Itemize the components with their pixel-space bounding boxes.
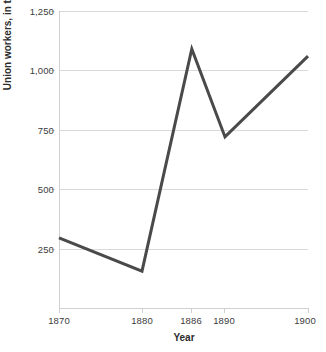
line-chart: 1,250 1,000 750 500 250 1870 1880 1886 1…	[0, 0, 326, 352]
series-line-union-workers	[0, 0, 326, 352]
y-axis-title: Union workers, in thousands	[2, 0, 16, 170]
series-polyline	[59, 49, 308, 271]
x-axis-title: Year	[59, 332, 309, 343]
